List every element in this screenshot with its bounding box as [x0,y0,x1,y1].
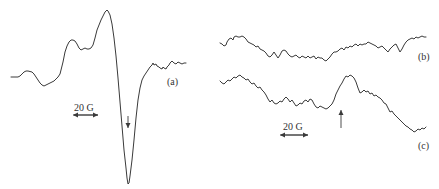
scale-label-c: 20 G [283,121,303,132]
epr-spectra-figure: 20 G (a) (b) 20 G (c) [0,0,439,189]
scale-label-a: 20 G [74,102,94,113]
trace-c [220,75,426,132]
spectra-canvas: 20 G (a) (b) 20 G (c) [0,0,439,189]
panel-label-a: (a) [167,76,178,88]
panel-label-c: (c) [418,140,429,152]
panel-label-b: (b) [418,51,430,63]
trace-a [11,10,186,184]
trace-b [220,36,426,61]
